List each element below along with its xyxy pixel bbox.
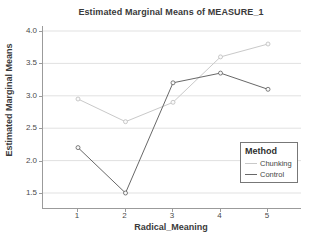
- x-tick-mark: [172, 209, 173, 212]
- data-point-chunking-4: [219, 55, 223, 59]
- y-tick-label: 4.0: [0, 27, 37, 35]
- y-tick-mark: [39, 161, 42, 162]
- data-point-control-5: [266, 87, 270, 91]
- y-tick-mark: [39, 31, 42, 32]
- y-tick-mark: [39, 96, 42, 97]
- data-point-chunking-3: [171, 100, 175, 104]
- x-tick-mark: [220, 209, 221, 212]
- legend-entry-chunking: Chunking: [245, 158, 294, 169]
- data-point-control-4: [219, 71, 223, 75]
- x-axis-label: Radical_Meaning: [42, 222, 300, 232]
- data-point-control-2: [124, 191, 128, 195]
- data-point-chunking-5: [266, 42, 270, 46]
- x-tick-label: 5: [257, 212, 277, 220]
- x-tick-label: 3: [162, 212, 182, 220]
- spss-profile-plot: Estimated Marginal Means of MEASURE_1 Es…: [0, 0, 315, 243]
- legend: Method ChunkingControl: [240, 142, 298, 183]
- y-tick-mark: [39, 193, 42, 194]
- y-tick-mark: [39, 63, 42, 64]
- chart-title: Estimated Marginal Means of MEASURE_1: [42, 7, 300, 17]
- x-tick-label: 1: [67, 212, 87, 220]
- x-tick-mark: [267, 209, 268, 212]
- x-tick-label: 4: [210, 212, 230, 220]
- data-point-control-1: [76, 146, 80, 150]
- legend-swatch-chunking: [245, 163, 257, 164]
- y-tick-label: 2.5: [0, 124, 37, 132]
- data-point-chunking-1: [76, 97, 80, 101]
- y-tick-mark: [39, 128, 42, 129]
- legend-swatch-control: [245, 174, 257, 175]
- data-point-control-3: [171, 81, 175, 85]
- x-tick-mark: [77, 209, 78, 212]
- legend-entry-control: Control: [245, 169, 294, 180]
- y-tick-label: 3.0: [0, 92, 37, 100]
- y-tick-label: 3.5: [0, 59, 37, 67]
- data-point-chunking-2: [124, 120, 128, 124]
- y-tick-label: 1.5: [0, 189, 37, 197]
- legend-title: Method: [245, 146, 294, 156]
- legend-entries: ChunkingControl: [245, 158, 294, 180]
- legend-label-chunking: Chunking: [260, 159, 292, 168]
- x-tick-mark: [125, 209, 126, 212]
- y-tick-label: 2.0: [0, 157, 37, 165]
- x-tick-label: 2: [115, 212, 135, 220]
- legend-label-control: Control: [260, 170, 284, 179]
